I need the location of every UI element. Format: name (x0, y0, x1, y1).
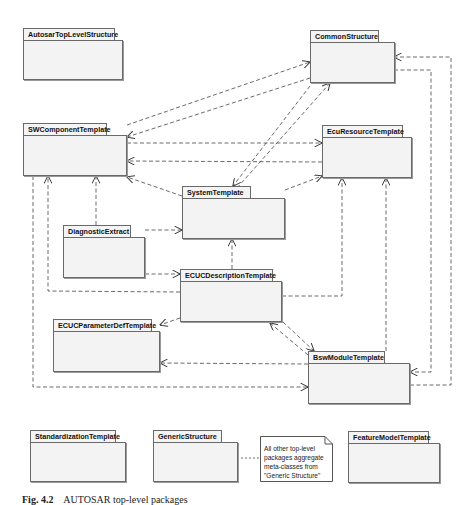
package-label: DiagnosticExtract (63, 225, 131, 237)
package-body (30, 442, 126, 482)
uml-note: All other top-level packages aggregate m… (260, 436, 333, 482)
note-line: All other top-level (264, 444, 329, 453)
package-body (23, 40, 123, 80)
package-body (53, 331, 160, 372)
figure-caption: Fig. 4.2 AUTOSAR top-level packages (22, 494, 188, 505)
package-body (182, 198, 285, 239)
note-line: "Generic Structure" (264, 471, 329, 480)
package-label: SystemTemplate (182, 186, 251, 198)
package-body (308, 363, 410, 404)
package-body (63, 237, 145, 278)
package-label: AutosarTopLevelStructure (23, 28, 115, 40)
figure-caption-text: AUTOSAR top-level packages (63, 494, 187, 505)
package-label: GenericStructure (153, 430, 222, 442)
package-body (180, 281, 282, 322)
package-label: FeatureModelTemplate (348, 431, 429, 443)
package-label: SWComponentTemplate (23, 123, 107, 135)
package-body (153, 442, 238, 482)
package-body (310, 42, 395, 83)
package-body (348, 443, 440, 483)
package-label: ECUCParameterDefTemplate (53, 319, 152, 331)
figure-number: Fig. 4.2 (22, 494, 53, 505)
note-line: packages aggregate (264, 453, 329, 462)
package-label: EcuResourceTemplate (322, 125, 403, 137)
package-label: BswModuleTemplate (308, 351, 385, 363)
package-label: ECUCDescriptionTemplate (180, 269, 273, 281)
package-label: CommonStructure (310, 30, 379, 42)
package-body (23, 135, 127, 176)
package-body (322, 137, 412, 178)
note-line: meta-classes from (264, 462, 329, 471)
package-label: StandardizationTemplate (30, 430, 116, 442)
